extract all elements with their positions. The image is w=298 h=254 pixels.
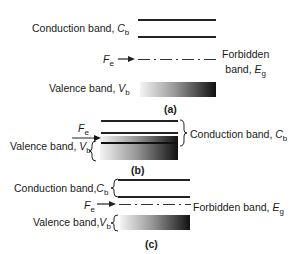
valence-band-top-line bbox=[101, 142, 178, 144]
panel-c-caption: (c) bbox=[145, 238, 158, 250]
fermi-level-label: Fe bbox=[84, 199, 95, 216]
conduction-band-label: Conduction band, Cb bbox=[190, 128, 287, 145]
panel-a-caption: (a) bbox=[164, 103, 177, 115]
forbidden-band-label: Forbidden band, Eg bbox=[193, 201, 284, 218]
valence-band-label: Valence band, Vb bbox=[49, 82, 130, 99]
conduction-band-bottom-line bbox=[118, 196, 190, 198]
conduction-band-label: Conduction band, Cb bbox=[32, 22, 129, 39]
valence-band-block bbox=[140, 82, 216, 97]
conduction-band-label: Conduction band,Cb bbox=[14, 182, 108, 199]
forbidden-band-label: Forbidden band, Eg bbox=[222, 48, 269, 80]
valence-band-block bbox=[100, 136, 178, 160]
fermi-arrow-icon bbox=[118, 55, 136, 63]
valence-band-block bbox=[120, 215, 190, 230]
conduction-brace-icon bbox=[179, 119, 187, 147]
valence-band-label: Valence band, Vb bbox=[10, 140, 91, 157]
conduction-band-top-line bbox=[118, 179, 190, 181]
conduction-brace-icon bbox=[111, 178, 119, 198]
valence-band-label: Valence band,Vb bbox=[33, 216, 111, 233]
panel-b-caption: (b) bbox=[131, 164, 144, 176]
fermi-level-dashdot-line bbox=[138, 58, 218, 61]
conduction-band-top-line bbox=[138, 19, 216, 21]
fermi-arrow-icon bbox=[97, 200, 117, 208]
conduction-band-bottom-line bbox=[138, 36, 216, 38]
conduction-band-bottom-line bbox=[101, 132, 178, 134]
conduction-band-top-line bbox=[101, 120, 178, 122]
valence-brace-icon bbox=[111, 214, 119, 232]
fermi-level-dashdot-line bbox=[119, 203, 191, 206]
fermi-level-label: Fe bbox=[103, 53, 114, 70]
